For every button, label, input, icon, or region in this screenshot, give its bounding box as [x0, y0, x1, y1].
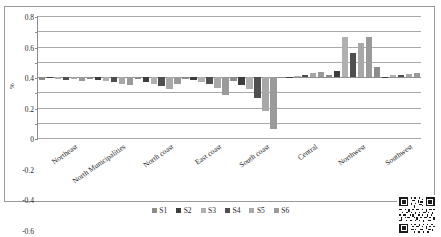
bar[interactable]: [366, 37, 372, 77]
bar[interactable]: [151, 77, 157, 84]
legend-label: S4: [233, 206, 241, 215]
bar[interactable]: [111, 77, 117, 82]
bar[interactable]: [174, 77, 180, 84]
bar[interactable]: [135, 77, 141, 79]
bar-slot: [86, 16, 94, 138]
bar-slot: [54, 16, 62, 138]
bar[interactable]: [358, 43, 364, 77]
bar[interactable]: [278, 77, 284, 78]
bar[interactable]: [374, 67, 380, 77]
bar[interactable]: [350, 53, 356, 77]
bar[interactable]: [246, 77, 252, 89]
bar-slot: [229, 16, 237, 138]
legend-label: S6: [281, 206, 289, 215]
legend-item[interactable]: S6: [274, 206, 289, 215]
legend-item[interactable]: S4: [225, 206, 240, 215]
bar-slot: [253, 16, 261, 138]
bar[interactable]: [222, 77, 228, 95]
bar-slot: [357, 16, 365, 138]
bar-slot: [78, 16, 86, 138]
bar-slot: [62, 16, 70, 138]
bar-slot: [150, 16, 158, 138]
bar[interactable]: [286, 77, 292, 78]
bar[interactable]: [79, 77, 85, 81]
bar[interactable]: [55, 77, 61, 79]
bar[interactable]: [342, 37, 348, 77]
legend-item[interactable]: S1: [152, 206, 167, 215]
bar[interactable]: [198, 77, 204, 82]
bar[interactable]: [166, 77, 172, 89]
bar-slot: [333, 16, 341, 138]
bar[interactable]: [302, 75, 308, 77]
legend-swatch-icon: [274, 208, 279, 213]
bar[interactable]: [143, 77, 149, 82]
bar-slot: [142, 16, 150, 138]
bar-slot: [46, 16, 54, 138]
bar[interactable]: [270, 77, 276, 129]
bar-slot: [94, 16, 102, 138]
bar-slot: [70, 16, 78, 138]
legend-swatch-icon: [152, 208, 157, 213]
bar[interactable]: [294, 76, 300, 77]
gridline: -0.8: [38, 138, 421, 139]
bar-slot: [214, 16, 222, 138]
bar[interactable]: [406, 74, 412, 77]
y-axis-tick-label: -0.4: [22, 196, 34, 205]
bar[interactable]: [326, 75, 332, 77]
bar[interactable]: [214, 77, 220, 88]
bar-slot: [325, 16, 333, 138]
bar[interactable]: [190, 77, 196, 80]
bar[interactable]: [238, 77, 244, 85]
bar-slot: [381, 16, 389, 138]
bar[interactable]: [119, 77, 125, 84]
bar-slot: [245, 16, 253, 138]
y-axis-tick-label: 0.4: [25, 74, 34, 83]
bar-slot: [365, 16, 373, 138]
legend-swatch-icon: [225, 208, 230, 213]
legend-item[interactable]: S5: [249, 206, 264, 215]
bar[interactable]: [95, 77, 101, 80]
bar[interactable]: [398, 75, 404, 77]
bar-slot: [405, 16, 413, 138]
legend-item[interactable]: S3: [201, 206, 216, 215]
bar[interactable]: [310, 73, 316, 77]
bar[interactable]: [127, 77, 133, 85]
bar[interactable]: [206, 77, 212, 84]
bar[interactable]: [262, 77, 268, 111]
bar-slot: [102, 16, 110, 138]
bar-slot: [174, 16, 182, 138]
bar-slot: [38, 16, 46, 138]
bar[interactable]: [318, 72, 324, 77]
legend-item[interactable]: S2: [176, 206, 191, 215]
bar-slot: [285, 16, 293, 138]
bar-slot: [397, 16, 405, 138]
bar[interactable]: [87, 77, 93, 79]
chart-figure: % 0.80.60.40.20-0.2-0.4-0.6-0.8 Northeas…: [0, 0, 441, 237]
bar[interactable]: [47, 77, 53, 78]
bar[interactable]: [382, 77, 388, 78]
y-axis-tick-label: -0.2: [22, 165, 34, 174]
bar-group: [277, 16, 325, 138]
bar-slot: [261, 16, 269, 138]
bar-slot: [309, 16, 317, 138]
bar-slot: [413, 16, 421, 138]
bar[interactable]: [71, 77, 77, 79]
bar[interactable]: [103, 77, 109, 81]
bar-group: [325, 16, 373, 138]
bar[interactable]: [63, 77, 69, 80]
legend-swatch-icon: [201, 208, 206, 213]
bar-slot: [166, 16, 174, 138]
bar[interactable]: [414, 73, 420, 77]
bar-slot: [317, 16, 325, 138]
bar[interactable]: [254, 77, 260, 98]
bar[interactable]: [182, 77, 188, 79]
bar[interactable]: [230, 77, 236, 81]
bar-slot: [341, 16, 349, 138]
bar[interactable]: [334, 71, 340, 77]
bar[interactable]: [158, 77, 164, 86]
legend-label: S2: [184, 206, 192, 215]
bar-slot: [110, 16, 118, 138]
legend-label: S1: [159, 206, 167, 215]
bar[interactable]: [39, 77, 45, 80]
bar[interactable]: [390, 75, 396, 77]
